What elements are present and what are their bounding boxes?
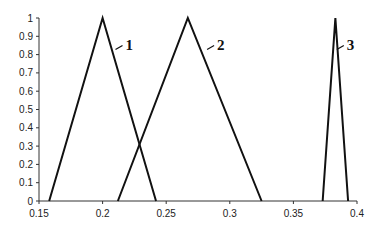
x-tick-label: 0.3 — [223, 208, 237, 219]
series-label-3: 3 — [347, 37, 355, 53]
x-tick-label: 0.2 — [96, 208, 110, 219]
series-labels: 123 — [115, 37, 354, 53]
x-tick-label: 0.35 — [284, 208, 304, 219]
membership-function-chart: 00.10.20.30.40.50.60.70.80.910.150.20.25… — [0, 0, 378, 228]
y-tick-label: 1 — [27, 13, 33, 24]
series-label-2: 2 — [217, 37, 225, 53]
series-lines — [49, 18, 348, 201]
y-tick-label: 0.2 — [19, 159, 33, 170]
series-3-line — [323, 18, 348, 201]
y-tick-label: 0.6 — [19, 86, 33, 97]
series-1-line — [49, 18, 156, 201]
series-2-line — [118, 18, 262, 201]
y-tick-label: 0.7 — [19, 67, 33, 78]
x-tick-label: 0.15 — [29, 208, 49, 219]
y-tick-label: 0.8 — [19, 49, 33, 60]
y-tick-label: 0.9 — [19, 31, 33, 42]
y-tick-label: 0.4 — [19, 122, 33, 133]
y-tick-label: 0.3 — [19, 141, 33, 152]
x-tick-label: 0.25 — [156, 208, 176, 219]
y-tick-label: 0.5 — [19, 104, 33, 115]
series-label-1: 1 — [125, 37, 133, 53]
y-tick-label: 0 — [27, 196, 33, 207]
label-leader — [115, 45, 122, 49]
label-leader — [207, 45, 214, 49]
x-tick-label: 0.4 — [350, 208, 364, 219]
axes: 00.10.20.30.40.50.60.70.80.910.150.20.25… — [19, 13, 364, 220]
y-tick-label: 0.1 — [19, 177, 33, 188]
